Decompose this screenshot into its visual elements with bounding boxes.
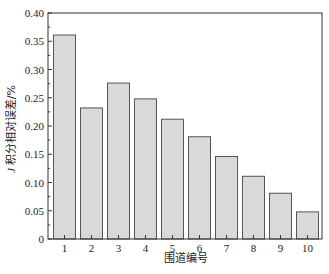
x-tick-label: 7 <box>224 242 230 254</box>
bar-9 <box>270 193 292 239</box>
bar-4 <box>135 99 157 239</box>
y-tick-label: 0 <box>39 233 45 245</box>
y-axis-label: J积分相对误差/% <box>4 85 18 173</box>
x-tick-label: 4 <box>143 242 149 254</box>
bar-8 <box>243 176 265 239</box>
x-axis-label: 围道编号 <box>164 251 208 265</box>
y-axis-label-rest: 积分相对误差/% <box>4 85 18 165</box>
bar-5 <box>162 119 184 239</box>
y-tick-label: 0.20 <box>25 120 45 132</box>
y-tick-label: 0.10 <box>25 177 45 189</box>
bars <box>54 35 319 239</box>
bar-6 <box>189 137 211 239</box>
bar-7 <box>216 157 238 239</box>
bar-2 <box>81 108 103 239</box>
y-tick-label: 0.05 <box>25 205 45 217</box>
bar-chart: 00.050.100.150.200.250.300.350.40 123456… <box>0 0 329 274</box>
x-tick-label: 8 <box>251 242 257 254</box>
y-axis-label-italic: J <box>5 167 17 173</box>
y-tick-label: 0.40 <box>25 7 45 19</box>
y-tick-label: 0.15 <box>25 148 45 160</box>
x-tick-label: 3 <box>116 242 122 254</box>
x-tick-label: 9 <box>278 242 284 254</box>
bar-10 <box>297 212 319 239</box>
x-tick-label: 10 <box>302 242 314 254</box>
x-tick-label: 1 <box>62 242 68 254</box>
y-tick-label: 0.35 <box>25 35 45 47</box>
y-tick-label: 0.30 <box>25 64 45 76</box>
bar-3 <box>108 83 130 239</box>
x-tick-label: 2 <box>89 242 95 254</box>
bar-1 <box>54 35 76 239</box>
y-tick-label: 0.25 <box>25 92 45 104</box>
